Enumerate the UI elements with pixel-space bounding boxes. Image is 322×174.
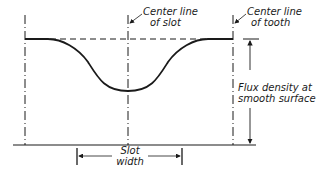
flux-density-label: Flux density at smooth surface [238, 82, 316, 104]
slot-center-label-line2: of slot [143, 17, 198, 28]
flux-label-line1: Flux density at [238, 82, 316, 93]
tooth-center-label-line2: of tooth [247, 17, 302, 28]
flux-label-line2: smooth surface [238, 93, 316, 104]
flux-density-curve [25, 39, 233, 91]
slot-width-label: Slot width [110, 145, 150, 167]
slot-width-label-line2: width [110, 156, 150, 167]
slot-width-label-line1: Slot [110, 145, 150, 156]
tooth-label-leader [235, 14, 246, 23]
slot-label-leader [130, 14, 142, 23]
slot-center-label-line1: Center line [143, 6, 198, 17]
flux-density-diagram: Center line of slot Center line of tooth… [0, 0, 322, 174]
tooth-center-label-line1: Center line [247, 6, 302, 17]
slot-center-label: Center line of slot [143, 6, 198, 28]
tooth-center-label: Center line of tooth [247, 6, 302, 28]
